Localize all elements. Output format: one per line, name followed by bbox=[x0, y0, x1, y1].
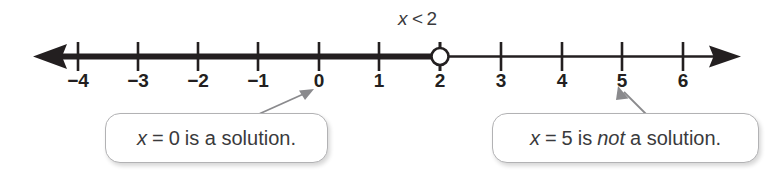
tick-label--3: −3 bbox=[118, 70, 158, 92]
tick-label-1: 1 bbox=[359, 70, 399, 92]
tick-label-3: 3 bbox=[481, 70, 521, 92]
callout-five-emphasis: not bbox=[597, 127, 625, 149]
callout-zero-text: x=0is a solution. bbox=[137, 127, 296, 150]
number-line-figure: x<2 −4 −3 −2 −1 0 1 2 3 4 5 6 x=0is a so… bbox=[0, 0, 780, 179]
tick-label-4: 4 bbox=[542, 70, 582, 92]
callout-five-is: is bbox=[578, 127, 592, 149]
callout-five: x=5isnota solution. bbox=[492, 113, 759, 163]
tick-label--4: −4 bbox=[58, 70, 98, 92]
arrow-right-icon bbox=[709, 46, 741, 68]
callout-five-equals: = bbox=[545, 127, 557, 149]
callout-five-value: 5 bbox=[562, 127, 573, 149]
callout-zero-value: 0 bbox=[169, 127, 180, 149]
tick-label-2: 2 bbox=[420, 70, 460, 92]
arrow-left-icon bbox=[33, 44, 67, 69]
tick-label-5: 5 bbox=[602, 70, 642, 92]
inequality-label: x<2 bbox=[398, 8, 438, 30]
inequality-variable: x bbox=[398, 8, 409, 29]
callout-zero-equals: = bbox=[152, 127, 164, 149]
open-circle-endpoint bbox=[432, 48, 449, 65]
callout-five-tail: a solution. bbox=[630, 127, 721, 149]
inequality-value: 2 bbox=[427, 8, 438, 29]
callout-five-text: x=5isnota solution. bbox=[530, 127, 721, 150]
tick-label--1: −1 bbox=[238, 70, 278, 92]
callout-zero-variable: x bbox=[137, 127, 147, 149]
tick-label--2: −2 bbox=[178, 70, 218, 92]
tick-label-6: 6 bbox=[663, 70, 703, 92]
tick-label-0: 0 bbox=[299, 70, 339, 92]
callout-five-variable: x bbox=[530, 127, 540, 149]
callout-zero-tail: is a solution. bbox=[185, 127, 296, 149]
callout-zero: x=0is a solution. bbox=[105, 113, 328, 163]
inequality-relation: < bbox=[409, 8, 427, 29]
